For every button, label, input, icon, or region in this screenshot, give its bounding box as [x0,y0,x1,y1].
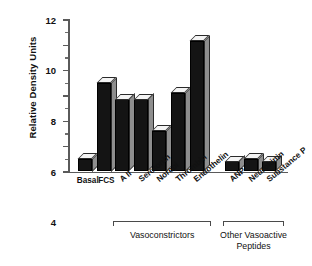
y-tick-10: 10 [63,45,68,46]
y-tick-6: 6 [63,95,68,96]
y-tick-label-10: 10 [45,65,56,76]
bar-front-face [97,83,111,172]
bracket-other-vasoactive [223,221,284,226]
bar-endothelin [190,35,204,171]
y-tick-label-4: 4 [51,217,56,228]
y-tick-4: 4 [63,121,68,122]
bar-serotonin [134,94,148,172]
bar-a-ii [115,94,129,172]
y-axis-title: Relative Density Units [27,8,38,168]
y-minor-tick-1 [65,159,68,160]
y-tick-label-12: 12 [45,14,56,25]
y-minor-tick-7 [65,83,68,84]
bar-basal [78,153,92,171]
bar-front-face [78,159,92,172]
group-label-other-vasoactive: Other Vasoactive Peptides [209,230,298,252]
plot-area: 024681012 [68,19,288,173]
bar-front-face [190,41,204,171]
group-label-vasoconstrictors: Vasoconstrictors [99,230,225,241]
bar-side-face [204,35,210,171]
bar-front-face [171,93,185,172]
bar-fcs [97,77,111,171]
bracket-vasoconstrictors [113,221,211,226]
y-tick-2: 2 [63,146,68,147]
x-label-basal: Basal [77,176,99,185]
chart-figure: Relative Density Units 024681012 BasalFC… [0,0,312,266]
y-tick-label-8: 8 [51,116,56,127]
y-tick-0: 0 [63,171,68,172]
bar-front-face [134,99,148,171]
bar-front-face [115,99,129,171]
y-minor-tick-3 [65,133,68,134]
y-tick-label-6: 6 [51,166,56,177]
y-axis-line [68,19,70,173]
y-minor-tick-9 [65,57,68,58]
y-tick-8: 8 [63,70,68,71]
y-minor-tick-5 [65,108,68,109]
x-label-fcs: FCS [98,176,114,185]
y-minor-tick-11 [65,32,68,33]
bar-thrombin [171,87,185,171]
y-tick-12: 12 [63,19,68,20]
